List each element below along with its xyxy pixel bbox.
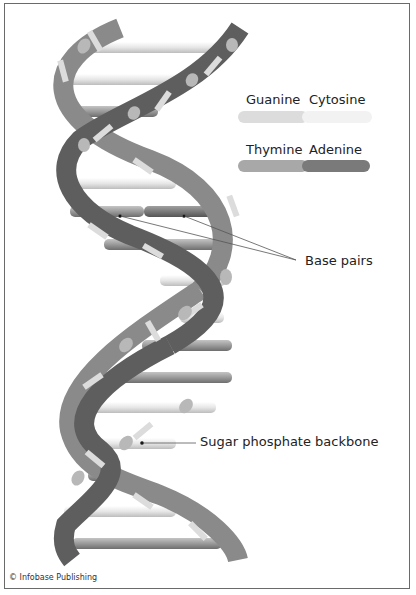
dna-double-helix xyxy=(0,0,416,595)
legend-adenine-label: Adenine xyxy=(309,142,362,157)
base-pairs-callout: Base pairs xyxy=(305,253,373,268)
copyright-credit: © Infobase Publishing xyxy=(9,573,97,582)
legend-thymine-label: Thymine xyxy=(246,142,302,157)
legend-cytosine-label: Cytosine xyxy=(309,92,365,107)
backbone-callout: Sugar phosphate backbone xyxy=(200,434,378,449)
legend-guanine-label: Guanine xyxy=(246,92,300,107)
